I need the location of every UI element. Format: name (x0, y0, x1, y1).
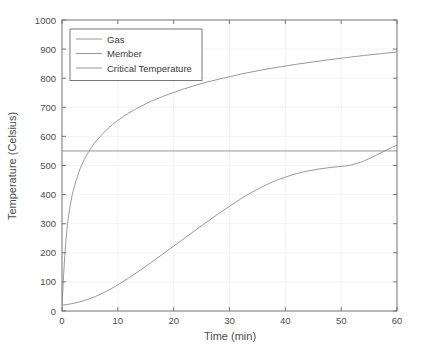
chart-canvas: 0102030405060010020030040050060070080090… (0, 0, 430, 351)
x-tick-label: 50 (336, 315, 347, 326)
x-tick-label: 10 (113, 315, 124, 326)
y-tick-label: 400 (40, 189, 56, 200)
y-tick-label: 100 (40, 276, 56, 287)
y-tick-label: 1000 (35, 15, 56, 26)
chart-legend[interactable]: GasMemberCritical Temperature (70, 29, 202, 81)
legend-label-critical-temperature: Critical Temperature (107, 63, 192, 74)
x-tick-label: 60 (392, 315, 403, 326)
y-axis-label: Temperature (Celsius) (6, 112, 18, 220)
y-tick-label: 500 (40, 160, 56, 171)
y-tick-label: 600 (40, 131, 56, 142)
legend-label-member: Member (107, 48, 142, 59)
y-tick-label: 200 (40, 247, 56, 258)
x-axis-label: Time (min) (204, 330, 256, 342)
figure-background (0, 0, 430, 351)
y-tick-label: 300 (40, 218, 56, 229)
chart-figure: 0102030405060010020030040050060070080090… (0, 0, 430, 351)
x-tick-label: 40 (280, 315, 291, 326)
legend-label-gas: Gas (107, 34, 125, 45)
y-tick-label: 0 (51, 306, 56, 317)
x-tick-label: 0 (59, 315, 64, 326)
x-tick-label: 20 (168, 315, 179, 326)
y-tick-label: 800 (40, 73, 56, 84)
y-tick-label: 900 (40, 44, 56, 55)
x-tick-label: 30 (224, 315, 235, 326)
y-tick-label: 700 (40, 102, 56, 113)
